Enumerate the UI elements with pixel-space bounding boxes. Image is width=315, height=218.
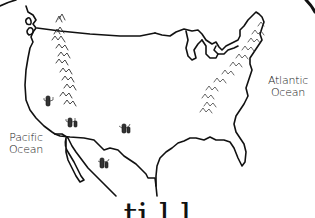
corner-arc [0,0,16,6]
cactus-icon [119,124,130,133]
appalachian-mountains [200,22,264,113]
rocky-mountains [52,14,76,106]
us-outline-map [0,0,315,218]
atlantic-label-line2: Ocean [262,87,314,99]
cactus-icon [66,118,77,127]
cropped-caption-text: ti l l [0,200,315,218]
pacific-label-line2: Ocean [4,144,48,156]
pacific-ocean-label: Pacific Ocean [4,132,48,156]
cactus-icon [98,158,109,168]
map-illustration: Atlantic Ocean Pacific Ocean ti l l [0,0,315,218]
atlantic-ocean-label: Atlantic Ocean [262,75,314,99]
cactus-icon [44,96,53,106]
